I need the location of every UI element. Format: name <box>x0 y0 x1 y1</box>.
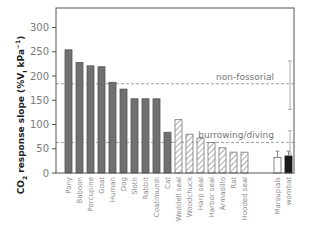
bars <box>65 50 292 173</box>
bar-hooded-seal <box>241 152 248 173</box>
y-tick-label: 0 <box>43 168 49 179</box>
category-label: Goat <box>98 177 106 194</box>
category-label: Pony <box>65 177 73 194</box>
y-axis-label: CO2 response slope (%VI kPa−1) <box>14 36 28 195</box>
category-label: Porcupine <box>87 177 95 211</box>
category-label: Baboon <box>76 177 84 204</box>
y-tick-label: 150 <box>30 95 49 106</box>
bar-cat <box>164 132 171 173</box>
y-tick-label: 300 <box>30 22 49 33</box>
category-label: Woodchuck <box>186 176 194 217</box>
bar-weddell-seal <box>175 120 182 173</box>
category-label: Armadillo <box>219 177 227 210</box>
bar-sloth <box>131 99 138 173</box>
bar-coatimundi <box>153 99 160 173</box>
category-label: Marsupials <box>274 177 282 215</box>
bar-baboon <box>76 62 83 173</box>
y-axis: 050100150200250300 <box>30 22 56 179</box>
bar-goat <box>98 67 105 173</box>
category-label: Human <box>109 177 117 202</box>
category-label: Hooded seal <box>241 177 249 220</box>
category-label: Harp seal <box>197 177 205 210</box>
category-label: Cat <box>164 177 172 189</box>
y-tick-label: 250 <box>30 46 49 57</box>
category-label: Sloth <box>131 177 139 195</box>
y-tick-label: 50 <box>36 143 49 154</box>
category-label: Rabbit <box>142 177 150 200</box>
bar-harbor-seal <box>208 142 215 173</box>
category-label: Coatimundi <box>153 177 161 217</box>
reference-line-label: burrowing/diving <box>198 130 274 140</box>
bar-wombat <box>285 156 292 173</box>
bar-human <box>109 82 116 173</box>
bar-porcupine <box>87 66 94 173</box>
bar-woodchuck <box>186 134 193 173</box>
category-label: Harbor seal <box>208 177 216 218</box>
bar-marsupials <box>274 157 281 173</box>
category-labels: PonyBaboonPorcupineGoatHumanDogSlothRabb… <box>65 176 293 221</box>
bar-rabbit <box>142 99 149 173</box>
bar-harp-seal <box>197 138 204 173</box>
category-label: Weddell seal <box>175 177 183 221</box>
co2-response-bar-chart: CO2 response slope (%VI kPa−1) 050100150… <box>0 0 312 225</box>
category-label: wombat <box>285 177 293 206</box>
category-label: Rat <box>230 177 238 189</box>
bar-rat <box>230 152 237 173</box>
y-tick-label: 100 <box>30 119 49 130</box>
category-label: Dog <box>120 177 128 191</box>
y-tick-label: 200 <box>30 71 49 82</box>
bar-armadillo <box>219 148 226 173</box>
bar-dog <box>120 89 127 173</box>
bar-pony <box>65 50 72 173</box>
reference-line-label: non-fossorial <box>216 72 274 82</box>
